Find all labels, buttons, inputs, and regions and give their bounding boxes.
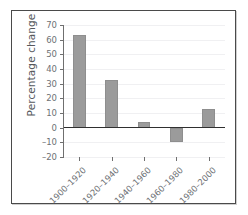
- gridline: [63, 25, 225, 26]
- y-tick-mark: [60, 98, 64, 99]
- bar: [73, 35, 86, 128]
- y-tick-label: 40: [46, 64, 57, 74]
- gridline: [63, 113, 225, 114]
- y-tick-label: 70: [46, 20, 57, 30]
- gridline: [63, 142, 225, 143]
- zero-baseline: [63, 127, 225, 129]
- y-axis-spine: [63, 25, 64, 157]
- bar: [105, 80, 118, 128]
- y-tick-mark: [60, 40, 64, 41]
- x-tick-mark: [176, 157, 177, 161]
- y-tick-mark: [60, 142, 64, 143]
- y-tick-mark: [60, 157, 64, 158]
- gridline: [63, 54, 225, 55]
- bar: [170, 128, 183, 142]
- gridline: [63, 40, 225, 41]
- y-axis-title: Percentage change: [25, 10, 37, 120]
- gridline: [63, 84, 225, 85]
- y-tick-label: –20: [42, 152, 57, 162]
- x-tick-mark: [79, 157, 80, 161]
- y-tick-label: –10: [42, 137, 57, 147]
- chart-figure-frame: Percentage change 706050403020100–10–20 …: [11, 10, 236, 204]
- bar: [202, 109, 215, 127]
- gridline: [63, 98, 225, 99]
- y-tick-label: 60: [46, 35, 57, 45]
- y-tick-mark: [60, 128, 64, 129]
- y-tick-mark: [60, 84, 64, 85]
- plot-area: 706050403020100–10–20 1900–19201920–1940…: [63, 25, 225, 157]
- x-tick-mark: [144, 157, 145, 161]
- x-tick-mark: [209, 157, 210, 161]
- y-tick-mark: [60, 69, 64, 70]
- y-tick-label: 10: [46, 108, 57, 118]
- gridline: [63, 69, 225, 70]
- y-tick-mark: [60, 113, 64, 114]
- y-tick-mark: [60, 54, 64, 55]
- y-tick-label: 30: [46, 79, 57, 89]
- y-tick-label: 50: [46, 49, 57, 59]
- x-tick-mark: [112, 157, 113, 161]
- y-tick-label: 20: [46, 93, 57, 103]
- y-tick-label: 0: [52, 123, 57, 133]
- y-tick-mark: [60, 25, 64, 26]
